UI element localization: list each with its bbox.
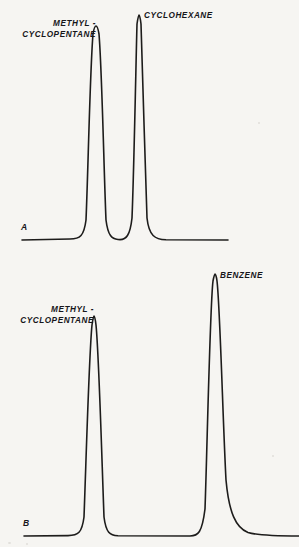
- scan-speck: [8, 542, 11, 544]
- peak-label-cyclohexane-a: CYCLOHEXANE: [144, 11, 254, 22]
- scan-speck: [26, 543, 28, 545]
- scan-speck: [258, 122, 260, 124]
- peak-label-methylcyclopentane-a: METHYL - CYCLOPENTANE: [18, 19, 96, 40]
- scan-speck: [272, 455, 274, 457]
- peak-label-methylcyclopentane-b: METHYL - CYCLOPENTANE: [16, 305, 94, 326]
- panel-a: METHYL - CYCLOPENTANE CYCLOHEXANE A: [0, 0, 299, 265]
- peak-label-benzene-b: BENZENE: [220, 271, 298, 282]
- panel-letter-b: B: [23, 518, 29, 528]
- panel-b: METHYL - CYCLOPENTANE BENZENE: [0, 265, 299, 547]
- panel-letter-a: A: [21, 222, 27, 232]
- chromatogram-trace-a: [22, 15, 228, 240]
- chromatogram-figure: METHYL - CYCLOPENTANE CYCLOHEXANE A METH…: [0, 0, 299, 547]
